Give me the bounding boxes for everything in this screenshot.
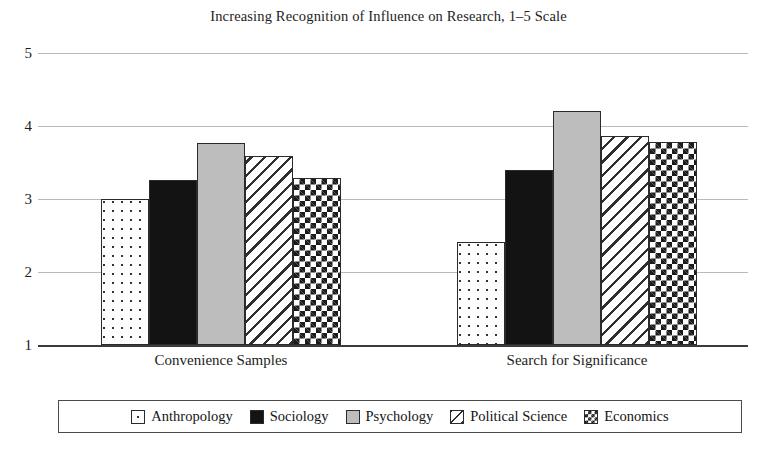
- bar-psychology-group-1: [197, 143, 245, 345]
- bar-chart: Increasing Recognition of Influence on R…: [0, 0, 777, 456]
- x-axis-category-label-2: Search for Significance: [427, 352, 727, 369]
- y-axis-tick-label-1: 1: [10, 337, 32, 354]
- legend-item-economics[interactable]: Economics: [584, 408, 668, 425]
- legend-swatch-dotted-icon: [131, 410, 145, 424]
- legend-swatch-solid-black-icon: [250, 410, 264, 424]
- bar-political-science-group-2: [601, 136, 649, 346]
- bar-sociology-group-1: [149, 180, 197, 345]
- y-axis-tick-label-4: 4: [10, 118, 32, 135]
- legend-label: Psychology: [366, 408, 434, 425]
- y-axis-tick-label-3: 3: [10, 191, 32, 208]
- bar-economics-group-1: [293, 178, 341, 345]
- legend-label: Sociology: [270, 408, 329, 425]
- y-axis-tick-label-5: 5: [10, 45, 32, 62]
- legend-swatch-light-gray-icon: [346, 410, 360, 424]
- legend-item-psychology[interactable]: Psychology: [346, 408, 434, 425]
- bar-anthropology-group-2: [457, 242, 505, 345]
- bar-sociology-group-2: [505, 170, 553, 345]
- bar-economics-group-2: [649, 142, 697, 345]
- chart-legend: Anthropology Sociology Psychology Politi…: [58, 400, 742, 433]
- legend-item-political-science[interactable]: Political Science: [450, 408, 567, 425]
- legend-item-anthropology[interactable]: Anthropology: [131, 408, 232, 425]
- gridline-1: [38, 345, 748, 347]
- legend-swatch-checkerboard-icon: [584, 410, 598, 424]
- legend-swatch-diagonal-hatch-icon: [450, 410, 464, 424]
- chart-title: Increasing Recognition of Influence on R…: [0, 8, 777, 25]
- gridline-4: [38, 126, 748, 127]
- x-axis-category-label-1: Convenience Samples: [71, 352, 371, 369]
- bar-anthropology-group-1: [101, 199, 149, 345]
- y-axis-tick-label-2: 2: [10, 264, 32, 281]
- legend-item-sociology[interactable]: Sociology: [250, 408, 329, 425]
- bar-psychology-group-2: [553, 111, 601, 345]
- legend-label: Political Science: [470, 408, 567, 425]
- plot-area: [38, 53, 748, 345]
- bar-political-science-group-1: [245, 156, 293, 345]
- gridline-5: [38, 53, 748, 54]
- legend-label: Economics: [604, 408, 668, 425]
- legend-label: Anthropology: [151, 408, 232, 425]
